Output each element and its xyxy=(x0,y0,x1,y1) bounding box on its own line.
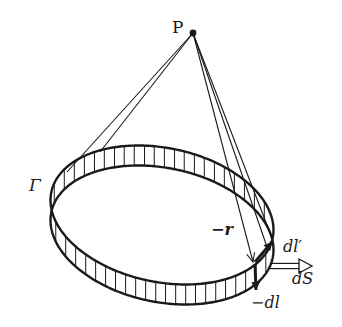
diagram-canvas: P Γ −r dl′ dS −dl xyxy=(0,0,342,327)
line-from-p xyxy=(193,33,266,244)
band-hatching xyxy=(54,146,266,305)
label-dl-prime: dl′ xyxy=(283,239,302,255)
point-p-dot xyxy=(190,30,197,37)
label-minus-r: −r xyxy=(211,222,233,238)
line-from-p xyxy=(193,33,272,238)
lines-from-p xyxy=(67,33,272,244)
label-ds: dS xyxy=(292,271,313,287)
label-point-p: P xyxy=(172,19,183,36)
line-from-p xyxy=(100,33,193,152)
loop-diagram xyxy=(0,0,342,327)
label-minus-dl: −dl xyxy=(251,295,280,311)
label-loop-gamma: Γ xyxy=(29,177,41,194)
